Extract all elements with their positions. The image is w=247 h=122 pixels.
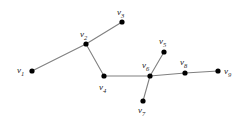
vertex-label-index: 7 — [142, 110, 145, 117]
vertex-label-index: 2 — [84, 34, 87, 41]
graph-vertex-v9 — [215, 68, 220, 73]
vertex-label-v5: v5 — [159, 37, 166, 48]
graph-vertex-v8 — [182, 70, 187, 75]
vertex-label-index: 3 — [121, 12, 124, 19]
graph-edge — [86, 22, 122, 44]
graph-edge — [150, 52, 164, 76]
graph-edge — [185, 71, 218, 73]
vertex-layer — [29, 19, 220, 103]
graph-vertex-v5 — [161, 49, 166, 54]
vertex-label-index: 1 — [21, 70, 24, 77]
graph-edge — [32, 44, 86, 71]
graph-vertex-v2 — [83, 41, 88, 46]
vertex-label-v2: v2 — [80, 30, 87, 41]
vertex-label-v6: v6 — [142, 61, 149, 72]
vertex-label-v1: v1 — [17, 66, 24, 77]
vertex-label-index: 8 — [184, 62, 187, 69]
vertex-label-v9: v9 — [224, 67, 231, 78]
graph-edge — [143, 76, 150, 101]
graph-vertex-v1 — [29, 68, 34, 73]
edge-layer — [32, 22, 218, 101]
vertex-label-index: 4 — [103, 87, 106, 94]
vertex-label-v4: v4 — [99, 83, 106, 94]
graph-vertex-v7 — [140, 98, 145, 103]
graph-edge — [86, 44, 104, 76]
graph-vertex-v6 — [147, 73, 152, 78]
graph-diagram: v1v2v3v4v5v6v7v8v9 — [0, 0, 247, 122]
vertex-label-v8: v8 — [180, 58, 187, 69]
vertex-label-index: 5 — [163, 41, 166, 48]
vertex-label-index: 9 — [228, 71, 231, 78]
graph-vertex-v3 — [119, 19, 124, 24]
vertex-label-v7: v7 — [138, 106, 145, 117]
vertex-label-v3: v3 — [117, 8, 124, 19]
vertex-label-index: 6 — [146, 65, 149, 72]
graph-edge — [150, 73, 185, 76]
graph-vertex-v4 — [101, 73, 106, 78]
